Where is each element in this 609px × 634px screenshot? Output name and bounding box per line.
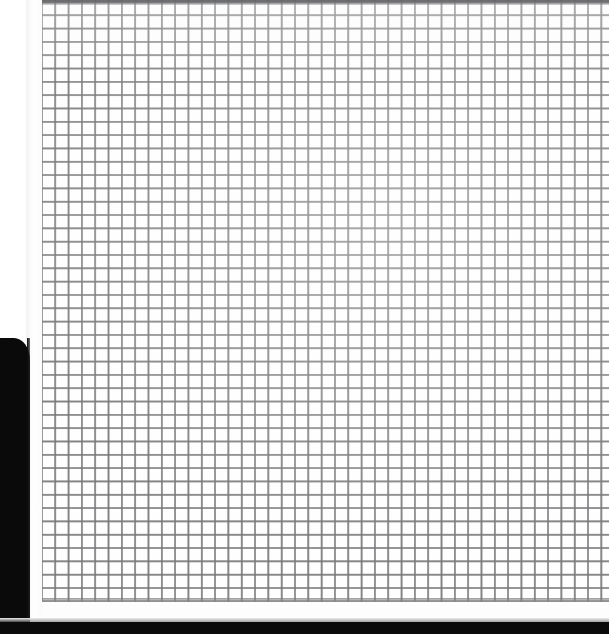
- mesh-bottom-selvedge: [40, 598, 609, 602]
- shadowed-left-area: [0, 338, 30, 624]
- shadowed-bottom-edge: [0, 622, 609, 634]
- screenshot-canvas: Window screen mesh close-up Extreme clos…: [0, 0, 609, 634]
- wire-mesh-screen: [40, 0, 609, 602]
- top-frame-rail: [40, 0, 609, 5]
